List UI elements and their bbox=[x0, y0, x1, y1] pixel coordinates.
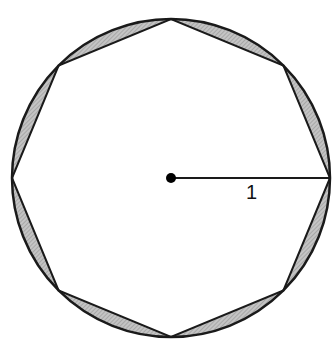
radius-label: 1 bbox=[246, 181, 257, 203]
octagon-in-circle-diagram: 1 bbox=[0, 0, 332, 339]
center-point bbox=[166, 173, 176, 183]
